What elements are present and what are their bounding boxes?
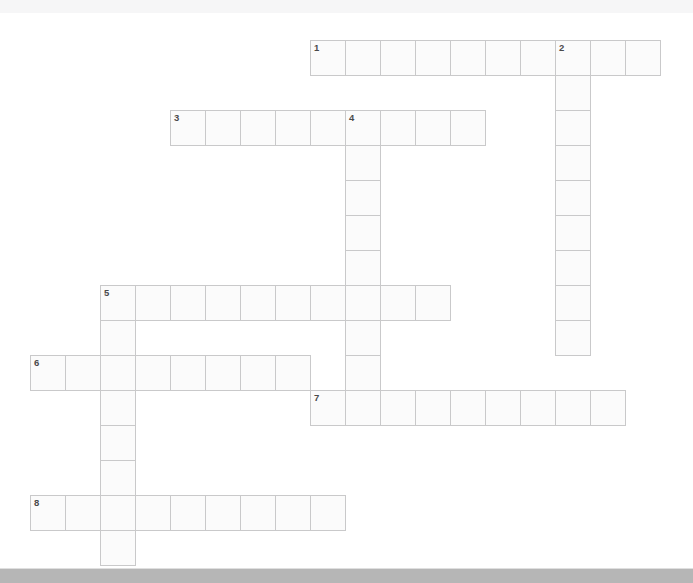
crossword-cell[interactable] (205, 110, 241, 146)
crossword-cell[interactable] (275, 355, 311, 391)
crossword-cell[interactable] (100, 460, 136, 496)
crossword-cell[interactable] (205, 285, 241, 321)
crossword-cell[interactable] (555, 145, 591, 181)
puzzle-page-body: 12345678 (0, 13, 693, 568)
top-decorative-bar (0, 0, 693, 14)
crossword-cell[interactable] (415, 390, 451, 426)
crossword-cell[interactable]: 8 (30, 495, 66, 531)
crossword-cell[interactable] (555, 215, 591, 251)
crossword-cell[interactable] (450, 110, 486, 146)
crossword-cell[interactable] (555, 320, 591, 356)
crossword-cell[interactable] (345, 180, 381, 216)
crossword-cell[interactable] (625, 40, 661, 76)
crossword-clue-number: 6 (34, 357, 39, 368)
crossword-cell[interactable] (380, 390, 416, 426)
crossword-cell[interactable] (590, 390, 626, 426)
crossword-cell[interactable] (345, 320, 381, 356)
bottom-decorative-bar (0, 568, 693, 583)
crossword-cell[interactable] (555, 390, 591, 426)
crossword-cell[interactable] (345, 355, 381, 391)
crossword-cell[interactable] (345, 250, 381, 286)
crossword-cell[interactable] (345, 390, 381, 426)
crossword-cell[interactable] (485, 390, 521, 426)
crossword-grid[interactable]: 12345678 (0, 13, 693, 568)
crossword-cell[interactable] (345, 145, 381, 181)
crossword-cell[interactable] (310, 495, 346, 531)
crossword-cell[interactable] (170, 285, 206, 321)
crossword-cell[interactable]: 4 (345, 110, 381, 146)
crossword-cell[interactable] (240, 110, 276, 146)
crossword-cell[interactable] (275, 110, 311, 146)
crossword-clue-number: 7 (314, 392, 319, 403)
crossword-cell[interactable]: 5 (100, 285, 136, 321)
crossword-cell[interactable] (100, 320, 136, 356)
crossword-cell[interactable] (555, 250, 591, 286)
crossword-cell[interactable] (100, 530, 136, 566)
crossword-cell[interactable] (205, 355, 241, 391)
crossword-cell[interactable] (415, 285, 451, 321)
crossword-cell[interactable] (65, 495, 101, 531)
crossword-cell[interactable] (590, 40, 626, 76)
crossword-cell[interactable] (555, 180, 591, 216)
crossword-clue-number: 8 (34, 497, 39, 508)
crossword-cell[interactable] (555, 75, 591, 111)
crossword-cell[interactable] (205, 495, 241, 531)
crossword-cell[interactable] (345, 285, 381, 321)
crossword-clue-number: 2 (559, 42, 564, 53)
crossword-cell[interactable] (485, 40, 521, 76)
crossword-clue-number: 4 (349, 112, 354, 123)
crossword-cell[interactable] (100, 425, 136, 461)
crossword-cell[interactable] (240, 285, 276, 321)
crossword-cell[interactable] (415, 110, 451, 146)
crossword-cell[interactable] (65, 355, 101, 391)
crossword-cell[interactable] (240, 355, 276, 391)
crossword-cell[interactable] (415, 40, 451, 76)
crossword-cell[interactable] (555, 285, 591, 321)
crossword-clue-number: 3 (174, 112, 179, 123)
crossword-cell[interactable] (135, 355, 171, 391)
crossword-cell[interactable] (345, 215, 381, 251)
crossword-cell[interactable] (450, 40, 486, 76)
crossword-cell[interactable] (520, 390, 556, 426)
crossword-cell[interactable] (310, 110, 346, 146)
crossword-cell[interactable] (135, 495, 171, 531)
crossword-cell[interactable] (240, 495, 276, 531)
crossword-cell[interactable] (170, 495, 206, 531)
crossword-cell[interactable] (275, 495, 311, 531)
crossword-clue-number: 5 (104, 287, 109, 298)
crossword-cell[interactable] (450, 390, 486, 426)
crossword-cell[interactable]: 1 (310, 40, 346, 76)
crossword-cell[interactable] (100, 355, 136, 391)
crossword-cell[interactable] (555, 110, 591, 146)
crossword-cell[interactable] (380, 40, 416, 76)
crossword-cell[interactable] (100, 390, 136, 426)
crossword-cell[interactable] (310, 285, 346, 321)
crossword-cell[interactable]: 7 (310, 390, 346, 426)
crossword-cell[interactable] (170, 355, 206, 391)
crossword-cell[interactable]: 6 (30, 355, 66, 391)
crossword-cell[interactable] (100, 495, 136, 531)
crossword-cell[interactable] (135, 285, 171, 321)
crossword-clue-number: 1 (314, 42, 319, 53)
crossword-cell[interactable]: 2 (555, 40, 591, 76)
crossword-cell[interactable]: 3 (170, 110, 206, 146)
crossword-cell[interactable] (275, 285, 311, 321)
crossword-cell[interactable] (345, 40, 381, 76)
crossword-cell[interactable] (380, 285, 416, 321)
crossword-cell[interactable] (380, 110, 416, 146)
crossword-cell[interactable] (520, 40, 556, 76)
